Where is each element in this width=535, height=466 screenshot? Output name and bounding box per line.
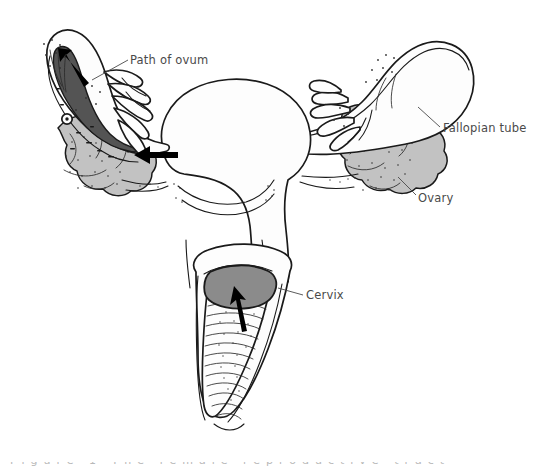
label-path-of-ovum: Path of ovum	[130, 53, 208, 67]
clipped-caption-strip: Figure 1 The female reproductive tract	[0, 462, 535, 466]
label-cervix: Cervix	[306, 288, 344, 302]
label-fallopian-tube: Fallopian tube	[443, 121, 527, 135]
ovum-nucleus	[65, 117, 68, 120]
label-ovary: Ovary	[418, 191, 453, 205]
clipped-caption-text: Figure 1 The female reproductive tract	[0, 462, 535, 466]
diagram-canvas: Path of ovum Fallopian tube Ovary Cervix…	[0, 0, 535, 466]
anatomy-illustration: Path of ovum Fallopian tube Ovary Cervix	[0, 0, 535, 466]
